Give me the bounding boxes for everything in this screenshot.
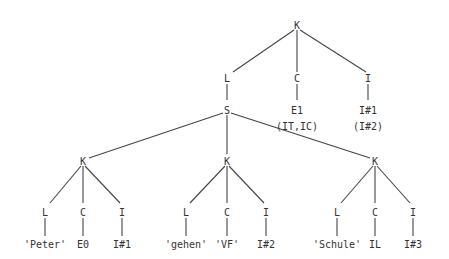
root-node: K <box>294 20 300 31</box>
subtree-1-K: K <box>80 156 86 167</box>
subtree-2-L: L <box>183 207 189 218</box>
subtree-1-C: C <box>80 207 86 218</box>
node-L: L <box>224 73 230 84</box>
subtree-2-idx: I#2 <box>257 239 275 250</box>
subtree-3-cat: IL <box>369 239 381 250</box>
node-I1-sub: (I#2) <box>353 121 383 132</box>
subtree-3-I: I <box>410 207 416 218</box>
subtree-3-idx: I#3 <box>404 239 422 250</box>
node-I1: I#1 <box>359 105 377 116</box>
subtree-1-idx: I#1 <box>113 239 131 250</box>
subtree-2-C: C <box>224 207 230 218</box>
node-E1-sub: (IT,IC) <box>276 121 318 132</box>
subtree-1-cat: E0 <box>77 239 89 250</box>
node-I: I <box>365 73 371 84</box>
subtree-3-L: L <box>334 207 340 218</box>
subtree-2-I: I <box>263 207 269 218</box>
node-C: C <box>294 73 300 84</box>
subtree-1-lex: 'Peter' <box>24 239 66 250</box>
tree-diagram: K L C I S E1 (IT,IC) I#1 (I#2) K L C I '… <box>0 0 449 259</box>
subtree-2-cat: 'VF' <box>215 239 239 250</box>
subtree-1-L: L <box>42 207 48 218</box>
subtree-2-lex: 'gehen' <box>165 239 207 250</box>
subtree-2-K: K <box>224 156 230 167</box>
subtree-3-K: K <box>372 156 378 167</box>
node-S: S <box>224 105 230 116</box>
subtree-3-lex: 'Schule' <box>313 239 361 250</box>
subtree-1-I: I <box>119 207 125 218</box>
node-E1: E1 <box>291 105 303 116</box>
subtree-3-C: C <box>372 207 378 218</box>
